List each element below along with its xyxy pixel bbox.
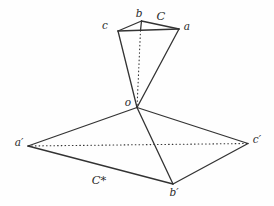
label-c-prime: c′	[253, 133, 262, 145]
edge-aprime-cprime-hidden	[28, 144, 248, 147]
edge-foot-o-hidden	[137, 31, 141, 108]
label-b-prime: b′	[169, 186, 179, 198]
label-c: c	[102, 19, 108, 31]
figure-svg: bCcaoa′c′b′C*	[0, 0, 274, 206]
label-a: a	[184, 20, 190, 32]
label-b: b	[136, 7, 143, 19]
edge-bprime-cprime	[173, 144, 248, 185]
geometry-figure: bCcaoa′c′b′C*	[0, 0, 274, 206]
label-C-star: C*	[92, 173, 107, 187]
edges-group	[28, 21, 248, 184]
label-a-prime: a′	[15, 136, 24, 148]
edge-c-b	[118, 21, 142, 31]
edge-o-cprime	[137, 108, 248, 144]
labels-group: bCcaoa′c′b′C*	[15, 7, 262, 198]
edge-c-a	[118, 29, 179, 31]
edge-a-o	[137, 29, 179, 108]
label-o: o	[125, 96, 131, 108]
edge-o-bprime	[137, 108, 173, 185]
edge-o-aprime	[28, 108, 137, 147]
label-C: C	[157, 9, 166, 23]
edge-b-altitude	[141, 21, 142, 31]
